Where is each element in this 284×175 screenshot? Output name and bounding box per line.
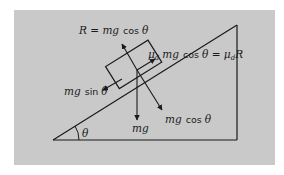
perpendicular-component-label: mgcosθ (165, 113, 212, 125)
normal-force-label: R = mgcosθ (78, 24, 149, 36)
inclined-plane-diagram: R = mgcosθ μdmgcosθ = μdR mgsinθ mgcosθ … (0, 0, 284, 175)
angle-arc (75, 126, 79, 140)
friction-label: μdmgcosθ = μdR (148, 48, 243, 62)
weight-label: mg (132, 122, 149, 134)
angle-label: θ (82, 127, 89, 139)
perp-component-arrow (137, 70, 162, 110)
parallel-component-label: mgsinθ (64, 85, 108, 97)
